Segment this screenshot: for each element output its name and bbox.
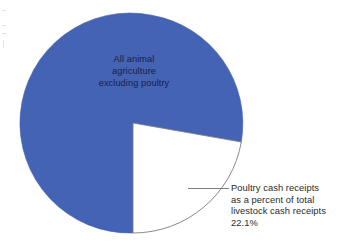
scan-artifact-mark — [3, 40, 7, 48]
pie-slice-label-line-3: excluding poultry — [54, 78, 214, 90]
pie-slice-poultry — [133, 123, 241, 233]
callout-line-3: livestock cash receipts — [231, 205, 355, 217]
scan-artifact-mark — [2, 33, 7, 34]
scan-artifact-mark — [2, 10, 6, 11]
pie-chart-figure: All animal agriculture excluding poultry… — [0, 0, 357, 247]
scan-artifact-mark — [2, 25, 6, 26]
callout-value-label: 22.1% — [231, 217, 355, 229]
callout-line-1: Poultry cash receipts — [231, 182, 355, 194]
pie-slice-label-line-1: All animal — [54, 54, 214, 66]
callout-line-2: as a percent of total — [231, 194, 355, 206]
pie-slice-label-all-animal-agriculture: All animal agriculture excluding poultry — [54, 54, 214, 89]
pie-slice-label-line-2: agriculture — [54, 66, 214, 78]
pie-slice-callout-poultry: Poultry cash receipts as a percent of to… — [231, 182, 355, 228]
